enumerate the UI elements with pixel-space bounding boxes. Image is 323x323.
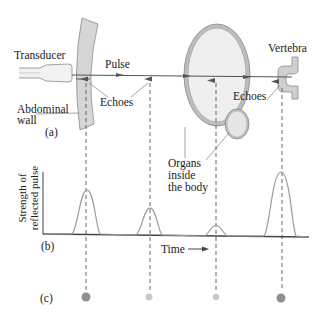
small-organ bbox=[225, 109, 249, 139]
echo-dot-strong bbox=[82, 293, 91, 302]
echo-arrow-icon bbox=[144, 77, 152, 82]
echo-dot-weak bbox=[213, 294, 219, 300]
pulse-arrow-icon bbox=[116, 73, 124, 77]
pulse-line bbox=[72, 75, 292, 77]
abdominal-wall bbox=[76, 18, 98, 130]
label-organs: Organs bbox=[168, 157, 201, 169]
echo-dot-strong bbox=[277, 294, 286, 303]
time-arrow-icon bbox=[202, 247, 209, 252]
label-inside: inside bbox=[168, 169, 195, 181]
label-vertebra: Vertebra bbox=[268, 42, 307, 54]
vertebra bbox=[278, 57, 298, 99]
x-axis-label-time: Time bbox=[161, 243, 185, 255]
transducer-probe bbox=[19, 64, 72, 82]
y-axis-label: Strength of reflected pulse bbox=[17, 159, 40, 237]
echo-arrow-icon bbox=[271, 79, 279, 84]
label-the-body: the body bbox=[168, 181, 208, 193]
label-pulse: Pulse bbox=[105, 58, 130, 70]
echo-dot-weak bbox=[146, 294, 153, 301]
label-transducer: Transducer bbox=[14, 49, 65, 61]
label-echoes-left: Echoes bbox=[100, 96, 133, 108]
label-part-a: (a) bbox=[45, 126, 58, 138]
label-wall: wall bbox=[17, 114, 37, 126]
label-part-c: (c) bbox=[40, 292, 53, 304]
label-echoes-right: Echoes bbox=[233, 90, 266, 102]
label-part-b: (b) bbox=[41, 240, 54, 252]
